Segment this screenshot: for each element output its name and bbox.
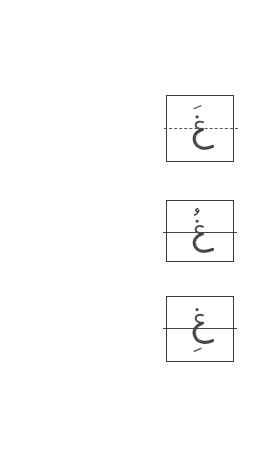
- letter-box-ghayn-kasra: غِ: [166, 296, 234, 362]
- ghayn-kasra-glyph-icon: [167, 297, 233, 361]
- ghayn-fatha-glyph-icon: [167, 96, 233, 161]
- letter-box-ghayn-damma: غُ: [166, 200, 234, 262]
- ghayn-damma-glyph-icon: [167, 201, 233, 261]
- worksheet-page: غَ غُ غِ: [0, 0, 260, 468]
- letter-box-ghayn-fatha: غَ: [166, 95, 234, 162]
